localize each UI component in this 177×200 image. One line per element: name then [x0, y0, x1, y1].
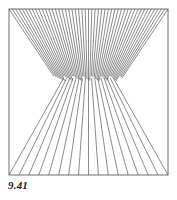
figure-caption: 9.41	[8, 179, 28, 192]
perspective-line-figure	[0, 0, 177, 200]
figure-container: 9.41	[0, 0, 177, 200]
